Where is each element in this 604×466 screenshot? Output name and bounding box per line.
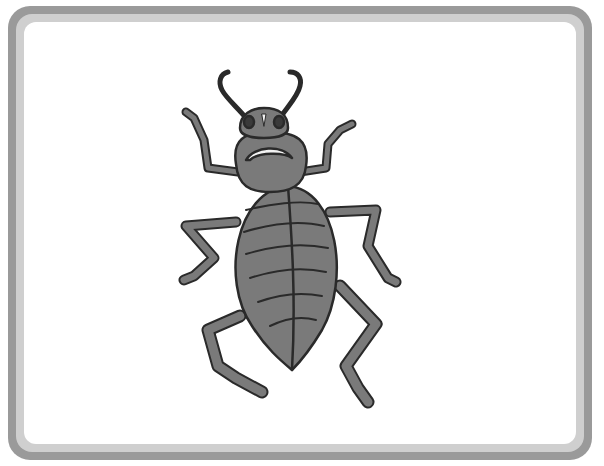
image-canvas <box>24 22 576 444</box>
picture-frame <box>8 6 592 460</box>
beetle-icon <box>24 22 576 444</box>
picture-frame-inner <box>16 14 584 452</box>
